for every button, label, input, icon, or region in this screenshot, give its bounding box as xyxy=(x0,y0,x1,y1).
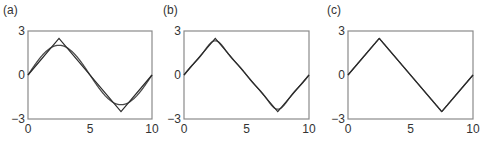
y-tick-label: −3 xyxy=(331,112,345,126)
x-tick-label: 10 xyxy=(145,122,159,136)
x-tick-label: 5 xyxy=(243,122,250,136)
plot-panel-c: 30−30510 xyxy=(331,24,480,136)
chart-canvas: 30−3051030−3051030−30510 xyxy=(0,0,490,141)
x-tick-label: 0 xyxy=(25,122,32,136)
x-tick-label: 10 xyxy=(466,122,480,136)
y-tick-label: 0 xyxy=(18,68,25,82)
y-tick-label: −3 xyxy=(11,112,25,126)
y-tick-label: 3 xyxy=(18,24,25,38)
triangle-wave-line xyxy=(184,38,309,111)
y-tick-label: −3 xyxy=(167,112,181,126)
panel-label-a: (a) xyxy=(3,3,18,17)
panel-label-c: (c) xyxy=(327,3,341,17)
panel-label-b: (b) xyxy=(163,3,178,17)
y-tick-label: 3 xyxy=(338,24,345,38)
y-tick-label: 0 xyxy=(338,68,345,82)
triangle-wave-line xyxy=(348,38,473,111)
y-tick-label: 0 xyxy=(174,68,181,82)
plot-panel-b: 30−30510 xyxy=(167,24,316,136)
x-tick-label: 5 xyxy=(407,122,414,136)
x-tick-label: 5 xyxy=(87,122,94,136)
y-tick-label: 3 xyxy=(174,24,181,38)
plot-panel-a: 30−30510 xyxy=(11,24,159,136)
x-tick-label: 0 xyxy=(345,122,352,136)
triangle-wave-line xyxy=(28,38,152,111)
x-tick-label: 10 xyxy=(302,122,316,136)
x-tick-label: 0 xyxy=(181,122,188,136)
